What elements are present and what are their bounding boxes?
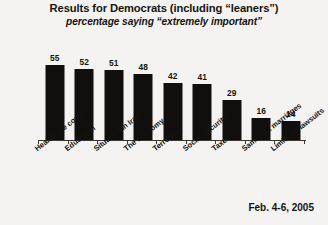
chart-title: Results for Democrats (including “leaner… [0, 2, 328, 15]
bar-slot: 29 [217, 58, 247, 140]
bar-value-label: 48 [139, 63, 148, 72]
bar-value-label: 29 [227, 89, 236, 98]
date-annotation: Feb. 4-6, 2005 [248, 202, 314, 213]
bar-value-label: 52 [80, 58, 89, 67]
bar-value-label: 55 [50, 54, 59, 63]
axis-tick [304, 141, 305, 144]
bar-value-label: 41 [198, 73, 207, 82]
bar-value-label: 42 [168, 72, 177, 81]
chart-subtitle: percentage saying “extremely important” [0, 15, 328, 28]
bar-value-label: 51 [109, 59, 118, 68]
bar-chart: Results for Democrats (including “leaner… [0, 0, 328, 225]
chart-title-block: Results for Democrats (including “leaner… [0, 2, 328, 28]
bar-value-label: 16 [257, 107, 266, 116]
